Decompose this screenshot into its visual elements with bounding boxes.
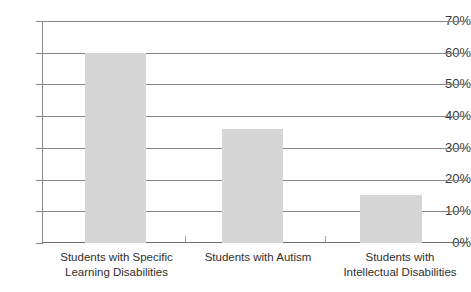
category-label-specific-learning-disabilities: Students with Specific Learning Disabili… <box>44 250 189 280</box>
bar-students-with-intellectual-disabilities <box>360 195 422 243</box>
category-label-line-1: Students with <box>330 250 470 265</box>
category-label-line-2: Intellectual Disabilities <box>330 265 470 280</box>
gridline-70 <box>42 21 467 22</box>
x-separator-tick-1 <box>185 236 186 242</box>
x-separator-tick-2 <box>325 236 326 242</box>
bar-students-with-autism <box>222 129 283 243</box>
x-axis-end-tick <box>466 237 467 242</box>
bar-students-with-specific-learning-disabilities <box>85 53 146 243</box>
category-label-intellectual-disabilities: Students with Intellectual Disabilities <box>330 250 470 280</box>
plot-area <box>42 21 467 243</box>
category-label-line-1: Students with Autism <box>188 250 328 265</box>
category-label-autism: Students with Autism <box>188 250 328 265</box>
category-label-line-1: Students with Specific <box>44 250 189 265</box>
bar-chart: 70% 60% 50% 40% 30% 20% 10% 0% <box>0 0 471 292</box>
category-label-line-2: Learning Disabilities <box>44 265 189 280</box>
